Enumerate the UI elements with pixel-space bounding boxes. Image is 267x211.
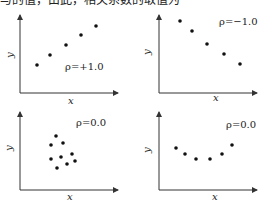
data-point <box>79 33 83 37</box>
x-axis-label: x <box>213 92 219 103</box>
data-point <box>174 146 178 150</box>
data-point <box>178 19 182 23</box>
data-point <box>61 141 65 145</box>
data-point <box>194 157 198 161</box>
correlation-label: ρ=−1.0 <box>219 16 258 27</box>
data-point <box>70 152 74 156</box>
correlation-label: ρ=0.0 <box>226 119 256 130</box>
x-axis-label: x <box>212 191 218 202</box>
correlation-label: ρ=0.0 <box>76 117 106 128</box>
data-point <box>73 159 77 163</box>
scatter-panel-3: ρ=0.0xy <box>3 112 118 202</box>
data-point <box>65 162 69 166</box>
data-point <box>230 143 234 147</box>
y-axis-label: y <box>141 147 152 154</box>
x-axis-label: x <box>68 95 74 106</box>
scatter-panel-4: ρ=0.0xy <box>141 112 257 202</box>
scatter-panel-2: ρ=−1.0xy <box>141 15 258 103</box>
data-point <box>220 152 224 156</box>
correlation-label: ρ=+1.0 <box>65 61 104 72</box>
y-axis-label: y <box>141 49 152 56</box>
x-axis-label: x <box>67 191 73 202</box>
data-point <box>54 134 58 138</box>
data-point <box>59 155 63 159</box>
data-point <box>55 166 59 170</box>
data-point <box>238 62 242 66</box>
data-point <box>35 63 39 67</box>
scatter-panel-1: ρ=+1.0xy <box>4 15 118 106</box>
data-point <box>49 143 53 147</box>
data-point <box>208 157 212 161</box>
y-axis-label: y <box>3 145 14 152</box>
data-point <box>48 53 52 57</box>
data-point <box>183 152 187 156</box>
scatter-charts: ρ=+1.0xyρ=−1.0xyρ=0.0xyρ=0.0xy <box>0 0 267 211</box>
y-axis-label: y <box>4 52 15 59</box>
data-point <box>64 43 68 47</box>
data-point <box>222 52 226 56</box>
data-point <box>49 157 53 161</box>
data-point <box>94 24 98 28</box>
data-point <box>190 29 194 33</box>
data-point <box>205 42 209 46</box>
